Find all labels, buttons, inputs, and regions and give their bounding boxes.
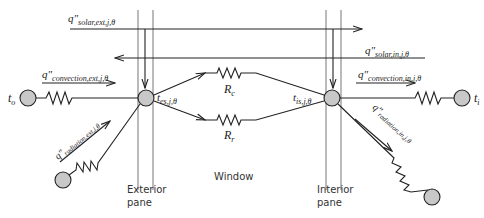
q-solar-in-label: q″solar,in,j,θ	[365, 44, 409, 59]
exterior-radiation-node	[55, 172, 71, 188]
rr-label: Rr	[223, 128, 235, 144]
t-is-label: tis,j,θ	[293, 91, 312, 106]
exterior-pane-label-line1: Exterior	[127, 184, 167, 195]
rc-label: Rc	[223, 82, 235, 98]
interior-surface-node	[324, 90, 340, 106]
q-solar-ext-label: q″solar,ext,j,θ	[68, 12, 115, 27]
exterior-surface-node	[138, 90, 154, 106]
t-i-label: ti	[474, 91, 480, 107]
convection-in-resistor	[340, 92, 454, 104]
indoor-temperature-node	[454, 90, 470, 106]
exterior-pane-label-line2: pane	[127, 197, 152, 208]
window-label: Window	[214, 171, 253, 182]
outdoor-temperature-node	[20, 90, 36, 106]
window-heat-transfer-diagram: q″solar,ext,j,θ q″solar,in,j,θ q″convect…	[0, 0, 484, 218]
t-o-label: to	[8, 91, 15, 107]
interior-pane-label-line2: pane	[317, 197, 342, 208]
t-es-label: tes,j,θ	[157, 91, 177, 106]
q-radiation-ext-label: q″radiation,ext,j,θ	[52, 118, 102, 163]
interior-radiation-node	[424, 189, 440, 205]
rc-in-arrow	[154, 73, 205, 95]
interior-pane-label-line1: Interior	[317, 184, 354, 195]
convection-ext-resistor	[36, 92, 138, 104]
q-convection-in-label: q″convection,in,j,θ	[358, 68, 421, 83]
q-convection-ext-label: q″convection,ext,j,θ	[42, 68, 108, 83]
q-radiation-in-label: q″radiation,in,j,θ	[369, 101, 416, 145]
rc-resistor	[205, 68, 324, 95]
